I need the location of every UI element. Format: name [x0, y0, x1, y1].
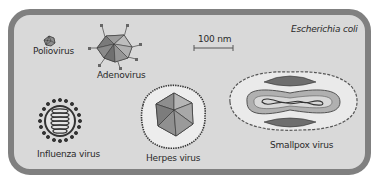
scale-bar-label: 100 nm — [198, 34, 231, 44]
herpes-virus-label: Herpes virus — [146, 153, 200, 163]
herpes-virus-icon — [142, 85, 206, 148]
influenza-virus-icon — [38, 98, 81, 142]
adenovirus-icon — [88, 24, 142, 70]
scale-bar — [194, 45, 233, 51]
adenovirus-label: Adenovirus — [97, 70, 145, 80]
smallpox-virus-icon — [230, 72, 357, 131]
influenza-virus-label: Influenza virus — [37, 149, 100, 159]
poliovirus-icon — [44, 36, 55, 46]
cell-label: Escherichia coli — [291, 24, 358, 34]
poliovirus-label: Poliovirus — [33, 46, 74, 56]
smallpox-virus-label: Smallpox virus — [270, 140, 333, 150]
